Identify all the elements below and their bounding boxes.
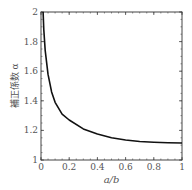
x-tick-label: 0	[38, 162, 44, 172]
y-tick-label: 1.6	[24, 66, 39, 76]
x-tick-label: 0.2	[62, 162, 76, 172]
x-tick-label: 1	[179, 162, 185, 172]
y-axis-label: 補正係数 α	[9, 64, 20, 109]
x-tick-label: 0.6	[118, 162, 133, 172]
y-tick-label: 1.2	[24, 125, 38, 135]
chart: 00.20.40.60.8111.21.41.61.82a/b補正係数 α	[0, 0, 192, 190]
y-tick-label: 2	[32, 7, 38, 17]
y-tick-label: 1	[32, 155, 38, 165]
y-tick-label: 1.8	[24, 37, 39, 47]
x-tick-label: 0.4	[90, 162, 105, 172]
series-line	[43, 12, 182, 143]
x-tick-label: 0.8	[147, 162, 162, 172]
x-axis-label: a/b	[104, 174, 120, 185]
y-tick-label: 1.4	[24, 96, 39, 106]
